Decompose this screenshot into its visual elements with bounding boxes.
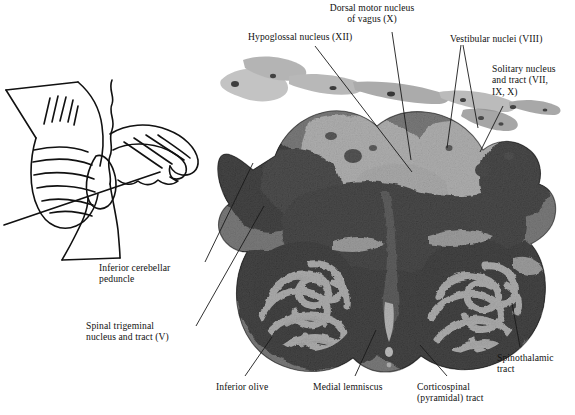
label-dorsal-motor-vagus: Dorsal motor nucleus of vagus (X) bbox=[302, 2, 442, 25]
medulla-histology-section bbox=[213, 52, 563, 387]
label-inferior-olive: Inferior olive bbox=[216, 381, 306, 392]
label-spinothalamic: Spinothalamic tract bbox=[497, 352, 575, 375]
tissue-debris-right bbox=[461, 108, 518, 131]
label-hypoglossal: Hypoglossal nucleus (XII) bbox=[248, 31, 388, 42]
label-medial-lemniscus: Medial lemniscus bbox=[313, 381, 413, 392]
medulla-tissue bbox=[213, 92, 563, 392]
inset-svg bbox=[0, 80, 215, 260]
label-corticospinal: Corticospinal (pyramidal) tract bbox=[417, 381, 522, 404]
label-inferior-cerebellar-peduncle: Inferior cerebellar peduncle bbox=[99, 262, 219, 285]
label-vestibular: Vestibular nuclei (VIII) bbox=[450, 33, 575, 44]
anatomy-figure: Dorsal motor nucleus of vagus (X) Hypogl… bbox=[0, 0, 575, 415]
brainstem-inset-drawing bbox=[0, 80, 215, 260]
label-solitary: Solitary nucleus and tract (VII, IX, X) bbox=[492, 63, 575, 97]
label-spinal-trigeminal: Spinal trigeminal nucleus and tract (V) bbox=[86, 320, 216, 343]
histology-svg bbox=[213, 52, 563, 387]
